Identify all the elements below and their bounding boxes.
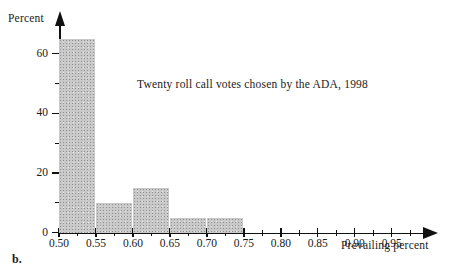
x-tick-label: 0.50 (39, 238, 79, 250)
histogram-bar (207, 218, 243, 233)
y-tick-label: 0 (20, 227, 48, 239)
x-tick-label: 0.70 (187, 238, 227, 250)
histogram-bar (59, 39, 95, 233)
x-tick-label: 0.65 (150, 238, 190, 250)
x-tick-label: 0.80 (261, 238, 301, 250)
x-tick-label: 0.85 (298, 238, 338, 250)
histogram-figure: Percent Twenty roll call votes chosen by… (0, 0, 453, 272)
histogram-bar (133, 188, 169, 233)
y-tick-label: 20 (20, 167, 48, 179)
histogram-bar (96, 203, 132, 233)
x-tick-label: 0.60 (113, 238, 153, 250)
panel-label: b. (12, 253, 22, 265)
histogram-bar (170, 218, 206, 233)
histogram-bars (59, 0, 425, 233)
y-axis-label: Percent (8, 13, 44, 25)
x-tick-label: 0.55 (76, 238, 116, 250)
y-tick-label: 60 (20, 48, 48, 60)
x-tick-label: 0.95 (372, 238, 412, 250)
x-axis-arrow-icon (423, 227, 438, 239)
x-tick-label: 0.90 (335, 238, 375, 250)
y-tick-label: 40 (20, 107, 48, 119)
x-tick-label: 0.75 (224, 238, 264, 250)
